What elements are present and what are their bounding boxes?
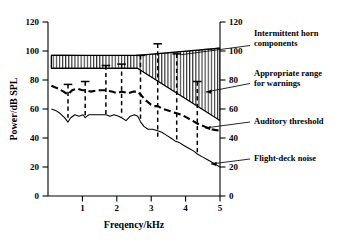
right-tick-label-120: 120 (229, 17, 243, 27)
annotation-label-line1: Appropriate range (254, 68, 322, 78)
x-tick-label-5: 5 (218, 203, 223, 213)
left-tick-label-80: 80 (30, 75, 40, 85)
x-tick-label-4: 4 (183, 203, 188, 213)
left-tick-label-120: 120 (26, 17, 40, 27)
annotation-label-line1: Intermittent horn (254, 28, 319, 38)
y-axis-title: Power/dB SPL (8, 77, 19, 140)
y-axis-title-text: Power/dB SPL (8, 77, 19, 140)
chart-canvas: 0 20 40 60 80 100 120 Power/dB SPL 1 2 3… (0, 0, 343, 243)
left-tick-label-100: 100 (26, 46, 40, 56)
plot-area (51, 44, 220, 167)
right-tick-label-60: 60 (229, 104, 239, 114)
right-tick-label-40: 40 (229, 133, 239, 143)
x-axis-title-text: Freqency/kHz (104, 219, 165, 230)
right-tick-label-80: 80 (229, 75, 239, 85)
bottom-axis: 1 2 3 4 5 Freqency/kHz (48, 196, 223, 230)
chart-figure: 0 20 40 60 80 100 120 Power/dB SPL 1 2 3… (0, 0, 343, 243)
x-tick-label-1: 1 (80, 203, 85, 213)
left-tick-label-20: 20 (30, 162, 40, 172)
annotation-auditory-threshold: Auditory threshold (205, 116, 324, 130)
left-axis-ticks (43, 22, 49, 196)
right-tick-label-0: 0 (229, 191, 234, 201)
left-axis: 0 20 40 60 80 100 120 (26, 17, 49, 201)
annotation-label-line1: Auditory threshold (254, 116, 324, 126)
x-tick-label-2: 2 (115, 203, 120, 213)
left-tick-label-0: 0 (35, 191, 40, 201)
right-axis: 0 20 40 60 80 100 120 (220, 17, 243, 201)
annotation-label-line2: for warnings (254, 78, 301, 88)
right-tick-label-20: 20 (229, 162, 239, 172)
bottom-axis-ticks (82, 196, 220, 202)
annotation-flight-deck-noise: Flight-deck noise (211, 153, 316, 166)
series-appropriate-range-for-warnings (51, 48, 220, 121)
horn-component (64, 84, 73, 117)
horn-component (81, 82, 90, 117)
series-flight-deck-noise (51, 109, 220, 167)
right-axis-ticks (220, 22, 226, 196)
annotation-appropriate-range-for-warnings: Appropriate range for warnings (206, 68, 322, 94)
x-tick-label-3: 3 (149, 203, 154, 213)
left-tick-label-60: 60 (30, 104, 40, 114)
left-tick-label-40: 40 (30, 133, 40, 143)
annotation-label-line1: Flight-deck noise (254, 153, 316, 163)
annotation-label-line2: components (254, 38, 298, 48)
